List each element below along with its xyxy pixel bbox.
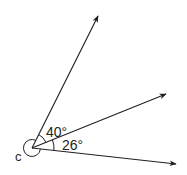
vertex-label-c: c — [15, 149, 22, 164]
angle-arc-upper — [39, 135, 46, 143]
angle-arc-lower — [52, 140, 54, 151]
lower-ray — [32, 148, 176, 164]
reflex-angle-arc — [23, 139, 40, 156]
angle-label-26: 26° — [62, 137, 83, 153]
angle-diagram: 40° 26° c — [0, 0, 187, 175]
